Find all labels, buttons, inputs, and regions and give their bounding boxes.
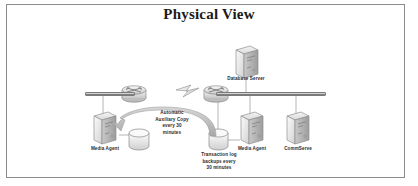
network-bus-left: [85, 92, 135, 96]
txn-log-line-1: Transaction log: [185, 152, 253, 159]
txn-log-line-2: backups every: [185, 159, 253, 166]
txn-log-line-3: 30 minutes: [185, 165, 253, 172]
aux-copy-annotation: Automatic Auxiliary Copy every 30 minute…: [138, 110, 206, 137]
aux-copy-line-1: Automatic: [138, 110, 206, 117]
figure-canvas: Physical View: [0, 0, 418, 186]
aux-copy-line-4: minutes: [138, 130, 206, 137]
transaction-log-annotation: Transaction log backups every 30 minutes: [185, 152, 253, 172]
commserve-label: CommServe: [263, 146, 333, 153]
database-server-label: Database Server: [211, 76, 281, 83]
database-server-icon[interactable]: [236, 46, 258, 78]
network-bus-right: [216, 92, 326, 96]
media-agent-left-icon[interactable]: [94, 112, 116, 144]
aux-copy-line-2: Auxiliary Copy: [138, 117, 206, 124]
wan-lightning-bolt-icon: [176, 85, 199, 97]
commserve-icon[interactable]: [287, 112, 309, 144]
media-agent-right-icon[interactable]: [241, 112, 263, 144]
aux-copy-line-3: every 30: [138, 123, 206, 130]
media-agent-left-label: Media Agent: [70, 146, 140, 153]
